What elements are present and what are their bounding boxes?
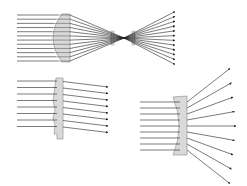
light-ray [70,15,123,38]
light-ray [63,127,108,133]
light-ray [70,23,123,37]
light-ray [63,108,108,114]
light-ray [70,38,123,61]
light-ray [123,16,175,38]
light-ray [63,121,108,127]
plano-convex-lens [53,14,70,62]
light-ray [187,112,235,120]
lens-ray-diagram [0,0,247,186]
light-ray [187,132,235,140]
diverging-lens-panel [140,68,236,183]
light-ray [187,97,233,114]
light-ray [63,88,108,94]
light-ray [187,83,232,108]
light-ray [187,150,230,184]
light-ray [70,38,123,52]
light-ray [63,95,108,101]
light-ray [63,114,108,120]
diverging-lens [173,96,187,155]
light-ray [63,82,108,88]
fresnel-lens [53,78,63,139]
plano-convex-lens-panel [17,12,175,65]
light-ray [63,101,108,107]
light-ray [187,68,230,102]
fresnel-lens-panel [17,78,108,139]
light-ray [187,144,232,169]
light-ray [187,138,233,155]
light-ray [123,38,175,60]
